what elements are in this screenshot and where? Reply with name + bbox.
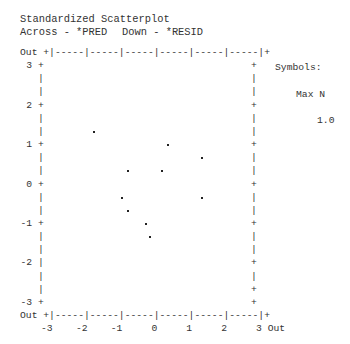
data-point — [161, 170, 163, 172]
right-axis-mark: | — [251, 73, 257, 85]
chart-title: Standardized Scatterplot — [20, 13, 170, 25]
y-tick-label: 1 — [26, 139, 32, 151]
data-point — [149, 236, 151, 238]
right-axis-mark: + — [251, 218, 257, 230]
left-axis-mark: | — [38, 165, 44, 177]
data-point — [167, 144, 169, 146]
right-axis-mark: | — [251, 192, 257, 204]
y-tick-label: -1 — [20, 218, 32, 230]
right-axis-mark: + — [251, 297, 257, 309]
right-axis-mark: | — [251, 244, 257, 256]
legend-value: 1.0 — [317, 115, 334, 127]
left-axis-mark: | — [38, 86, 44, 98]
data-point — [121, 197, 123, 199]
left-axis-mark: | — [38, 113, 44, 125]
y-tick-label: -2 — [20, 257, 32, 269]
y-tick-label: 3 — [26, 60, 32, 72]
right-axis-mark: + — [251, 139, 257, 151]
right-axis-mark: + — [251, 100, 257, 112]
right-axis-mark: | — [251, 231, 257, 243]
right-axis-mark: + — [251, 284, 257, 296]
left-axis-mark: | — [38, 231, 44, 243]
right-axis-mark: | — [251, 86, 257, 98]
legend-title: Symbols: — [275, 62, 322, 74]
data-point — [145, 223, 147, 225]
left-axis-mark: | — [38, 192, 44, 204]
legend-header: Max N — [296, 89, 325, 101]
right-axis-mark: | — [251, 205, 257, 217]
y-axis-variable: Down - *RESID — [122, 26, 203, 38]
right-axis-mark: | — [251, 165, 257, 177]
x-tick-labels: -3 -2 -1 0 1 2 3 Out — [41, 323, 285, 335]
left-axis-mark: | — [38, 271, 44, 283]
left-axis-mark: | — [38, 284, 44, 296]
left-axis-mark: | — [38, 126, 44, 138]
right-axis-mark: | — [251, 152, 257, 164]
left-axis-mark: | — [38, 152, 44, 164]
left-axis-mark: | — [38, 257, 44, 269]
right-axis-mark: | — [251, 271, 257, 283]
x-axis-variable: Across - *PRED — [20, 26, 107, 38]
data-point — [201, 197, 203, 199]
left-axis-mark: + — [38, 179, 44, 191]
y-tick-label: 0 — [26, 179, 32, 191]
right-axis-mark: + — [251, 257, 257, 269]
left-axis-mark: + — [38, 60, 44, 72]
y-tick-label: 2 — [26, 100, 32, 112]
left-axis-mark: + — [38, 218, 44, 230]
y-tick-label: -3 — [20, 297, 32, 309]
left-axis-mark: + — [38, 100, 44, 112]
bottom-border: Out +|-----|-----|-----|-----|-----|----… — [20, 310, 270, 322]
left-axis-mark: + — [38, 297, 44, 309]
right-axis-mark: | — [251, 113, 257, 125]
data-point — [127, 170, 129, 172]
top-border: Out +|-----|-----|-----|-----|-----|----… — [20, 47, 270, 59]
left-axis-mark: + — [38, 139, 44, 151]
left-axis-mark: | — [38, 73, 44, 85]
data-point — [127, 210, 129, 212]
right-axis-mark: | — [251, 126, 257, 138]
left-axis-mark: | — [38, 244, 44, 256]
right-axis-mark: + — [251, 179, 257, 191]
data-point — [93, 131, 95, 133]
right-axis-mark: + — [251, 60, 257, 72]
data-point — [201, 157, 203, 159]
left-axis-mark: | — [38, 205, 44, 217]
